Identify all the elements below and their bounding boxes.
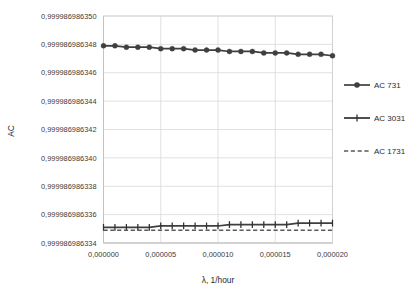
legend-label: AC 1731 <box>374 147 406 156</box>
y-tick-label: 0,999986986338 <box>41 182 97 191</box>
y-tick-label: 0,999986986340 <box>41 154 97 163</box>
legend-circle-marker <box>354 82 360 88</box>
legend-label: AC 731 <box>374 81 401 90</box>
y-tick-label: 0,999986986348 <box>41 40 97 49</box>
x-tick-label: 0,000015 <box>260 250 291 259</box>
y-axis-tick-labels: 0,9999869863500,9999869863480,9999869863… <box>41 12 97 248</box>
y-tick-label: 0,999986986344 <box>41 97 97 106</box>
y-tick-label: 0,999986986346 <box>41 68 97 77</box>
y-tick-label: 0,999986986334 <box>41 239 97 248</box>
y-tick-label: 0,999986986342 <box>41 125 97 134</box>
x-tick-label: 0,000020 <box>317 250 348 259</box>
y-axis-title: AC <box>6 125 16 137</box>
y-tick-label: 0,999986986336 <box>41 210 97 219</box>
y-tick-label: 0,999986986350 <box>41 12 97 21</box>
x-tick-label: 0,000000 <box>88 250 119 259</box>
chart-container: 0,9999869863500,9999869863480,9999869863… <box>0 0 418 292</box>
x-tick-label: 0,000005 <box>145 250 176 259</box>
line-chart: 0,9999869863500,9999869863480,9999869863… <box>0 0 418 292</box>
x-tick-label: 0,000010 <box>203 250 234 259</box>
legend-label: AC 3031 <box>374 114 406 123</box>
x-axis-title: λ, 1/hour <box>202 275 235 285</box>
